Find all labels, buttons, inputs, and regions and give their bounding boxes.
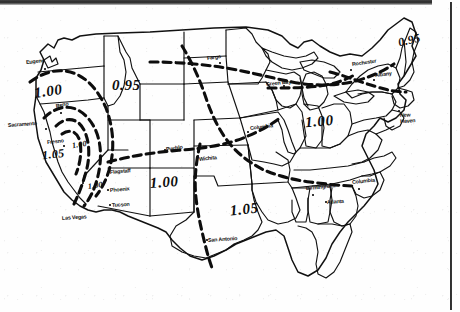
contour-label-tx-105: 1.05 [229, 201, 259, 219]
ok-tx-border [194, 176, 252, 186]
map-page: 1.000.951.051.001.001.001.051.000.95 Eug… [0, 0, 460, 312]
contour-line-100-innermost-california [62, 131, 81, 174]
lake-superior [262, 48, 318, 70]
us-map-graphic [0, 0, 460, 312]
contour-label-mw-100: 1.00 [304, 113, 334, 131]
nm-south [150, 212, 194, 216]
ms-outline [292, 188, 310, 222]
contour-line-105-california-inner [56, 120, 89, 204]
city-dot-tucson [109, 204, 111, 206]
contour-label-sw-100: 1.00 [150, 174, 180, 191]
contour-line-105-texas-vertical [195, 144, 212, 268]
mn-outline [226, 28, 270, 84]
contour-label-ca-105: 1.05 [41, 147, 65, 162]
puget-notch [44, 56, 58, 68]
city-dot-eugene [44, 68, 46, 70]
city-label-new-haven: NewHaven [400, 112, 416, 124]
city-dot-fresno [63, 145, 65, 147]
city-dot-rochester [350, 69, 352, 71]
ks-ok-border [194, 145, 248, 146]
city-dot-las-vegas [82, 182, 84, 184]
contour-label-nw-095: 0.95 [112, 78, 141, 93]
il-outline [278, 104, 306, 154]
ne-east [228, 82, 240, 118]
pa-ny-outline [346, 92, 396, 124]
sd-ne-border [184, 82, 228, 84]
city-dot-reno [60, 112, 62, 114]
city-label-line: Haven [400, 118, 415, 124]
ga-outline [330, 186, 358, 226]
city-dot-sacramento [45, 128, 47, 130]
city-dot-birmingham [312, 194, 314, 196]
tx-outline [170, 176, 262, 258]
city-dot-columbia-mo [247, 131, 249, 133]
city-dot-fargo [219, 62, 221, 64]
city-dot-columbia-sc [358, 188, 360, 190]
mo-outline [240, 112, 296, 166]
city-dot-phoenix [107, 189, 109, 191]
city-dot-albany [373, 79, 375, 81]
city-dot-flagstaff [107, 171, 109, 173]
ne-ks-border [194, 118, 240, 120]
fl-outline [298, 224, 352, 278]
contour-isolines [30, 46, 406, 268]
city-label-line: Atlanta [327, 199, 344, 206]
city-label-atlanta: Atlanta [327, 199, 344, 206]
